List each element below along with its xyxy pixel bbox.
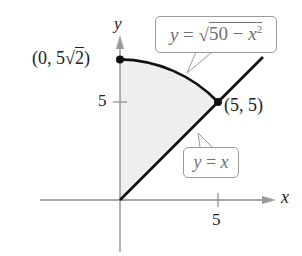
callout-curve-pointer bbox=[187, 52, 212, 73]
x-tick-label: 5 bbox=[212, 210, 221, 230]
callout-curve-radicand-var: x bbox=[248, 24, 256, 45]
callout-curve-eq: = bbox=[178, 24, 198, 46]
callout-line-lhs: y bbox=[193, 152, 201, 173]
callout-curve-equation: y = √50 − x2 bbox=[155, 16, 277, 53]
callout-curve-exponent: 2 bbox=[257, 23, 263, 35]
callout-line-eq: = bbox=[201, 152, 220, 173]
point-top-radicand: 2 bbox=[75, 48, 84, 68]
callout-curve-lhs: y bbox=[170, 24, 178, 46]
callout-curve-radicand: 50 − x2 bbox=[209, 23, 262, 45]
radical-icon: √ bbox=[65, 48, 75, 68]
callout-curve-radicand-num: 50 − bbox=[209, 24, 248, 45]
x-axis-label: x bbox=[281, 187, 289, 208]
shaded-region bbox=[120, 59, 218, 200]
point-top bbox=[116, 55, 124, 63]
y-tick-label: 5 bbox=[98, 91, 107, 111]
point-top-label: (0, 5√2) bbox=[32, 48, 90, 69]
y-axis-arrow-icon bbox=[116, 35, 124, 49]
point-intersection-label: (5, 5) bbox=[224, 95, 263, 116]
callout-line-pointer bbox=[198, 133, 212, 147]
radical-icon: √ bbox=[199, 24, 209, 46]
region-diagram: y x 5 5 (0, 5√2) (5, 5) y = √50 − x2 y =… bbox=[0, 0, 302, 256]
point-top-label-close: ) bbox=[84, 48, 90, 68]
point-intersection bbox=[214, 98, 222, 106]
point-top-label-main: (0, 5 bbox=[32, 48, 65, 68]
y-axis-label: y bbox=[114, 14, 122, 34]
callout-line-equation: y = x bbox=[183, 147, 239, 178]
callout-line-rhs: x bbox=[221, 152, 229, 173]
x-axis-arrow-icon bbox=[262, 196, 276, 204]
